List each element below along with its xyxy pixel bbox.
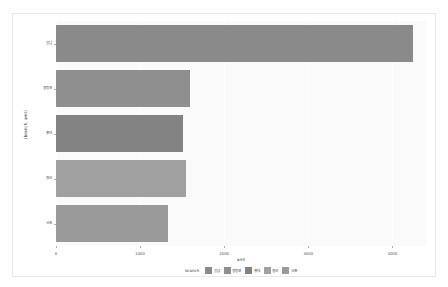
- legend-label: 서초: [291, 268, 297, 273]
- x-tick-mark: [392, 246, 393, 248]
- bar-row: [56, 201, 426, 246]
- bar: [56, 25, 413, 62]
- chart-figure: 강남영등포홍대용산서초 (branch, amt) 01000200030004…: [12, 13, 436, 277]
- x-tick-mark: [56, 246, 57, 248]
- legend-label: 홍대: [254, 268, 260, 273]
- x-tick-label: 1000: [135, 251, 145, 256]
- legend-item[interactable]: 홍대: [245, 267, 260, 274]
- y-tick-mark: [54, 179, 56, 180]
- legend-title: branch: [185, 268, 199, 273]
- x-tick-label: 0: [55, 251, 57, 256]
- x-tick-mark: [224, 246, 225, 248]
- x-tick-label: 4000: [388, 251, 398, 256]
- legend-swatch: [282, 267, 289, 274]
- legend-label: 강남: [214, 268, 220, 273]
- y-tick-mark: [54, 44, 56, 45]
- bar: [56, 115, 183, 152]
- chart-legend: branch 강남영등포홍대용산서초: [56, 264, 426, 276]
- y-tick-mark: [54, 224, 56, 225]
- y-axis: 강남영등포홍대용산서초: [13, 21, 56, 246]
- bar: [56, 205, 168, 242]
- x-tick-mark: [140, 246, 141, 248]
- y-tick-mark: [54, 89, 56, 90]
- bar: [56, 70, 190, 107]
- legend-swatch: [205, 267, 212, 274]
- bar-row: [56, 66, 426, 111]
- y-tick-label: 서초: [14, 222, 52, 226]
- x-tick-label: 3000: [303, 251, 313, 256]
- y-tick-mark: [54, 134, 56, 135]
- y-axis-label: (branch, amt): [23, 25, 28, 225]
- bar-row: [56, 111, 426, 156]
- y-tick-label: 영등포: [14, 87, 52, 91]
- y-tick-label: 강남: [14, 42, 52, 46]
- bar-row: [56, 156, 426, 201]
- legend-item[interactable]: 서초: [282, 267, 297, 274]
- legend-swatch: [224, 267, 231, 274]
- bar-row: [56, 21, 426, 66]
- legend-item[interactable]: 강남: [205, 267, 220, 274]
- legend-item[interactable]: 영등포: [224, 267, 242, 274]
- y-tick-label: 용산: [14, 177, 52, 181]
- bar: [56, 160, 186, 197]
- x-tick-mark: [308, 246, 309, 248]
- plot-panel: [56, 21, 426, 246]
- x-axis-label: amt: [56, 257, 426, 262]
- y-tick-label: 홍대: [14, 132, 52, 136]
- legend-swatch: [245, 267, 252, 274]
- x-tick-label: 2000: [219, 251, 229, 256]
- legend-label: 영등포: [232, 268, 241, 273]
- legend-item[interactable]: 용산: [264, 267, 279, 274]
- legend-label: 용산: [272, 268, 278, 273]
- legend-swatch: [264, 267, 271, 274]
